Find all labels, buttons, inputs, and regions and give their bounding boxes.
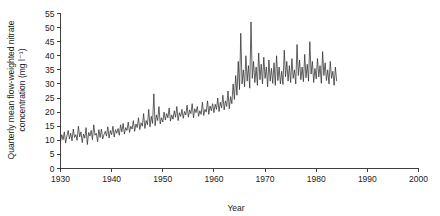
y-tick-label: 45 xyxy=(45,37,55,47)
y-axis-title-line2: concentration (mg l⁻¹) xyxy=(17,48,27,131)
y-tick-label: 30 xyxy=(45,79,55,89)
y-tick-label: 55 xyxy=(45,9,55,19)
x-axis-title: Year xyxy=(227,203,244,213)
y-tick-label: 20 xyxy=(45,107,55,117)
y-tick-label: 5 xyxy=(50,149,55,159)
x-tick-label: 1960 xyxy=(204,174,223,184)
y-tick-label: 0 xyxy=(50,164,55,174)
chart-canvas: 0510152025303540455055 19301940195019601… xyxy=(0,0,440,216)
y-tick-label: 25 xyxy=(45,93,55,103)
y-tick-label: 35 xyxy=(45,65,55,75)
y-axis-title-line1: Quarterly mean flow-weighted nitrate xyxy=(6,20,16,159)
nitrate-concentration-chart: 0510152025303540455055 19301940195019601… xyxy=(0,0,440,216)
x-tick-label: 1970 xyxy=(256,174,275,184)
x-tick-label: 1990 xyxy=(358,174,377,184)
x-tick-label: 1950 xyxy=(153,174,172,184)
x-tick-label: 1930 xyxy=(51,174,70,184)
y-tick-label: 15 xyxy=(45,121,55,131)
x-tick-label: 1980 xyxy=(307,174,326,184)
x-tick-label: 2000 xyxy=(409,174,428,184)
nitrate-series-line xyxy=(61,22,337,145)
x-axis-ticks: 19301940195019601970198019902000 xyxy=(51,169,428,184)
y-tick-label: 10 xyxy=(45,135,55,145)
y-tick-label: 50 xyxy=(45,23,55,33)
y-axis-ticks: 0510152025303540455055 xyxy=(45,9,60,174)
x-tick-label: 1940 xyxy=(102,174,121,184)
y-tick-label: 40 xyxy=(45,51,55,61)
